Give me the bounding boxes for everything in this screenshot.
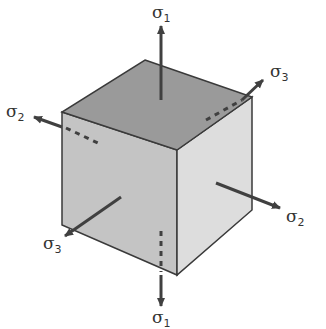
label-sigma2-right: σ2 — [286, 206, 305, 229]
label-sigma2-left: σ2 — [6, 101, 25, 124]
label-sigma1-top: σ1 — [152, 2, 171, 25]
stress-cube-diagram: σ1 σ1 σ2 σ2 σ3 σ3 — [0, 0, 326, 329]
label-sigma3-bottom-left: σ3 — [43, 233, 62, 256]
sigma2-left-arrow — [34, 117, 62, 127]
label-sigma3-top-right: σ3 — [270, 61, 289, 84]
label-sigma1-bottom: σ1 — [152, 307, 171, 329]
cube — [62, 60, 252, 275]
